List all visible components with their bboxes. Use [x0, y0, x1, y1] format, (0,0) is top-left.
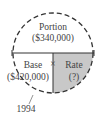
annotation-arrow: [29, 95, 33, 104]
base-value: ($420,000): [4, 72, 52, 83]
base-label: Base: [18, 60, 48, 71]
rate-value: (?): [62, 72, 86, 83]
multiply-operator: ×: [48, 59, 58, 70]
portion-label: Portion: [33, 22, 73, 33]
rate-label: Rate: [60, 60, 88, 71]
portion-value: ($340,000): [28, 33, 78, 44]
year-annotation: 1994: [14, 104, 38, 115]
